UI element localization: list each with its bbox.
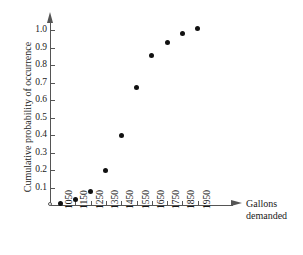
data-point bbox=[165, 40, 170, 45]
data-point bbox=[134, 85, 139, 90]
y-axis-tick bbox=[51, 118, 55, 119]
data-point bbox=[88, 189, 93, 194]
y-axis-tick bbox=[51, 135, 55, 136]
y-axis-tick bbox=[51, 153, 55, 154]
y-axis-tick-label: 1.0 bbox=[18, 25, 47, 35]
y-axis-line bbox=[50, 22, 51, 206]
x-axis-tick bbox=[182, 201, 183, 205]
x-axis-title-line-1: Gallons bbox=[246, 198, 287, 210]
y-axis-tick bbox=[51, 100, 55, 101]
x-axis-tick-label: 1250 bbox=[95, 190, 105, 209]
x-axis-tick bbox=[91, 201, 92, 205]
x-axis-tick-label: 1850 bbox=[186, 190, 196, 209]
x-axis-title: Gallons demanded bbox=[246, 198, 287, 221]
x-axis-tick bbox=[152, 201, 153, 205]
y-axis-tick bbox=[51, 65, 55, 66]
x-axis-tick bbox=[198, 201, 199, 205]
data-point bbox=[58, 201, 63, 206]
data-point bbox=[149, 53, 154, 58]
origin-marker bbox=[48, 202, 52, 206]
y-axis-arrow-icon bbox=[47, 12, 53, 23]
y-axis-tick bbox=[51, 170, 55, 171]
y-axis-title: Cumulative probability of occurrence bbox=[23, 37, 33, 197]
data-point bbox=[103, 168, 108, 173]
x-axis-tick-label: 1650 bbox=[156, 190, 166, 209]
x-axis-arrow-icon bbox=[231, 200, 242, 206]
data-point bbox=[119, 133, 124, 138]
x-axis-tick bbox=[106, 201, 107, 205]
x-axis-tick-label: 1750 bbox=[171, 190, 181, 209]
y-axis-tick bbox=[51, 188, 55, 189]
x-axis-tick-label: 1350 bbox=[110, 190, 120, 209]
data-point bbox=[73, 197, 78, 202]
x-axis-tick-label: 1950 bbox=[202, 190, 212, 209]
data-point bbox=[195, 26, 200, 31]
data-point bbox=[180, 31, 185, 36]
x-axis-tick bbox=[137, 201, 138, 205]
chart-figure: 0.10.20.30.40.50.60.70.80.91.0 105011501… bbox=[0, 0, 303, 255]
y-axis-tick bbox=[51, 48, 55, 49]
x-axis-tick bbox=[167, 201, 168, 205]
y-axis-tick-label-wrap: 1.0 bbox=[18, 25, 47, 35]
x-axis-tick-label: 1450 bbox=[125, 190, 135, 209]
x-axis-tick-label: 1550 bbox=[141, 190, 151, 209]
x-axis-tick bbox=[121, 201, 122, 205]
x-axis-title-line-2: demanded bbox=[246, 210, 287, 222]
y-axis-tick bbox=[51, 83, 55, 84]
y-axis-tick bbox=[51, 30, 55, 31]
